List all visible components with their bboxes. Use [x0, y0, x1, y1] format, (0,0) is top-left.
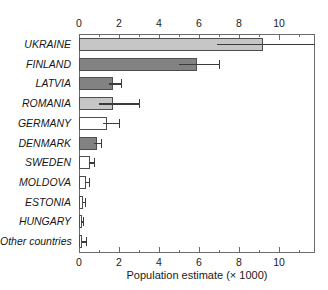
top-tick-label: 6: [184, 17, 214, 29]
bar-row: [79, 35, 313, 55]
bottom-tick-label: 4: [144, 256, 174, 268]
bar-rows: [79, 35, 313, 252]
axis-tick-minor: [139, 250, 140, 253]
error-bar-cap: [86, 237, 87, 246]
top-tick-label: 2: [104, 17, 134, 29]
bar-row: [79, 94, 313, 114]
category-label: FINLAND: [0, 55, 75, 75]
error-bar-cap: [101, 139, 102, 148]
top-tick-label: 0: [64, 17, 94, 29]
category-label: DENMARK: [0, 134, 75, 154]
axis-tick-minor: [99, 250, 100, 253]
bottom-tick-label: 2: [104, 256, 134, 268]
top-tick-label: 8: [224, 17, 254, 29]
bottom-axis-tick-labels: 0246810: [79, 256, 315, 270]
axis-tick-major: [239, 247, 240, 253]
category-label: MOLDOVA: [0, 173, 75, 193]
axis-tick-major: [79, 247, 80, 253]
top-axis-tick-labels: 0246810: [79, 17, 315, 31]
bar-row: [79, 173, 313, 193]
bottom-tick-label: 0: [64, 256, 94, 268]
bar-row: [79, 55, 313, 75]
bar-row: [79, 232, 313, 252]
error-bar-cap: [121, 79, 122, 88]
axis-tick-minor: [299, 250, 300, 253]
bottom-tick-label: 6: [184, 256, 214, 268]
bar-row: [79, 134, 313, 154]
axis-tick-major: [279, 247, 280, 253]
bar-row: [79, 212, 313, 232]
axis-tick-major: [119, 247, 120, 253]
category-label: Other countries: [0, 232, 75, 252]
category-label: ESTONIA: [0, 193, 75, 213]
error-bar-line: [94, 143, 101, 144]
category-label: UKRAINE: [0, 35, 75, 55]
category-axis-labels: UKRAINEFINLANDLATVIAROMANIAGERMANYDENMAR…: [0, 35, 75, 252]
error-bar-cap: [94, 158, 95, 167]
bar-row: [79, 74, 313, 94]
error-bar-line: [103, 123, 119, 124]
error-bar-line: [99, 103, 139, 104]
error-bar-cap: [119, 119, 120, 128]
axis-tick-minor: [259, 250, 260, 253]
error-bar-line: [179, 64, 219, 65]
axis-tick-major: [199, 247, 200, 253]
axis-tick-major: [159, 247, 160, 253]
error-bar-line: [217, 44, 315, 45]
bottom-tick-label: 10: [264, 256, 294, 268]
category-label: HUNGARY: [0, 212, 75, 232]
category-label: SWEDEN: [0, 153, 75, 173]
category-label: ROMANIA: [0, 94, 75, 114]
bar-row: [79, 153, 313, 173]
error-bar-cap: [219, 60, 220, 69]
error-bar-cap: [83, 217, 84, 226]
bar: [79, 77, 113, 90]
error-bar-line: [109, 83, 121, 84]
bar-row: [79, 114, 313, 134]
error-bar-cap: [85, 198, 86, 207]
top-tick-label: 10: [264, 17, 294, 29]
category-label: LATVIA: [0, 74, 75, 94]
error-bar-cap: [89, 178, 90, 187]
x-axis-title: Population estimate (× 1000): [79, 269, 315, 281]
axis-tick-minor: [219, 250, 220, 253]
axis-tick-minor: [179, 250, 180, 253]
category-label: GERMANY: [0, 114, 75, 134]
bottom-tick-label: 8: [224, 256, 254, 268]
top-tick-label: 4: [144, 17, 174, 29]
population-estimate-bar-chart: 0246810 UKRAINEFINLANDLATVIAROMANIAGERMA…: [0, 0, 328, 290]
bar-row: [79, 193, 313, 213]
error-bar-cap: [139, 99, 140, 108]
